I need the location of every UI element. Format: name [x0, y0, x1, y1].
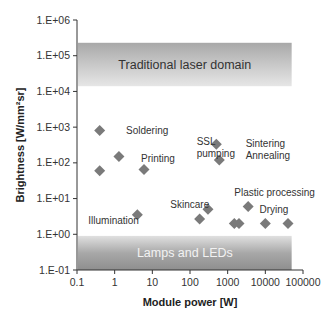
annotation-label: Soldering	[126, 125, 168, 136]
x-tick-label: 1000	[216, 276, 240, 288]
band-label: Lamps and LEDs	[137, 246, 233, 260]
y-tick-label: 1.E-01	[39, 264, 70, 276]
annotation-label: SSL	[197, 136, 216, 147]
band-label: Traditional laser domain	[118, 58, 251, 72]
diamond-marker	[283, 218, 294, 229]
x-axis-title: Module power [W]	[143, 296, 238, 308]
diamond-marker	[243, 201, 254, 212]
y-tick-label: 1.E+00	[36, 228, 70, 240]
y-tick-label: 1.E+04	[36, 85, 70, 97]
x-tick-label: 10	[146, 276, 158, 288]
y-tick-label: 1.E+01	[36, 192, 70, 204]
diamond-marker	[94, 125, 105, 136]
diamond-marker	[94, 165, 105, 176]
diamond-marker	[138, 164, 149, 175]
y-axis-title: Brightness [W/mm²sr]	[14, 87, 26, 202]
diamond-marker	[113, 151, 124, 162]
diamond-marker	[260, 218, 271, 229]
x-tick-label: 1	[112, 276, 118, 288]
annotation-label: Annealing	[246, 150, 290, 161]
annotation-label: Plastic processing	[234, 187, 315, 198]
annotation-label: pumping	[197, 148, 235, 159]
y-tick-label: 1.E+02	[36, 156, 70, 168]
annotation-label: Printing	[141, 153, 175, 164]
chart: Traditional laser domainLamps and LEDs 1…	[0, 0, 333, 322]
x-tick-label: 10000	[251, 276, 280, 288]
annotation-label: Drying	[259, 204, 288, 215]
diamond-marker	[194, 213, 205, 224]
y-tick-label: 1.E+03	[36, 121, 70, 133]
annotation-label: Illumination	[88, 215, 139, 226]
lamps-leds-band: Lamps and LEDs	[78, 236, 292, 270]
x-tick-label: 0.1	[70, 276, 85, 288]
annotation-label: Skincare	[170, 199, 209, 210]
x-tick-label: 100	[181, 276, 199, 288]
annotations: SolderingPrintingSSLpumpingSinteringAnne…	[88, 125, 315, 225]
y-tick-label: 1.E+05	[36, 49, 70, 61]
laser-domain-band: Traditional laser domain	[78, 43, 292, 86]
y-tick-label: 1.E+06	[36, 14, 70, 26]
x-tick-label: 100000	[285, 276, 320, 288]
annotation-label: Sintering	[246, 138, 285, 149]
